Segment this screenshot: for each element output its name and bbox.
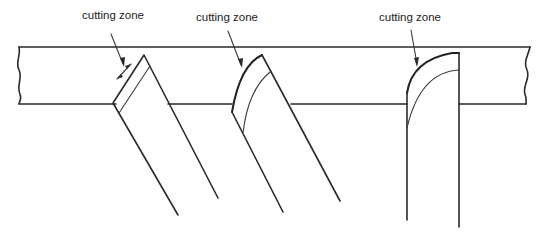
tool-2 — [228, 31, 340, 212]
diagram-canvas — [0, 0, 545, 234]
cutting-zone-label-2: cutting zone — [196, 12, 258, 24]
tool-3 — [407, 30, 459, 227]
tool-1 — [111, 34, 218, 215]
cutting-zone-label-3: cutting zone — [379, 12, 441, 24]
cutting-zone-diagram: cutting zone cutting zone cutting zone — [0, 0, 545, 234]
cutting-zone-label-1: cutting zone — [82, 10, 144, 22]
